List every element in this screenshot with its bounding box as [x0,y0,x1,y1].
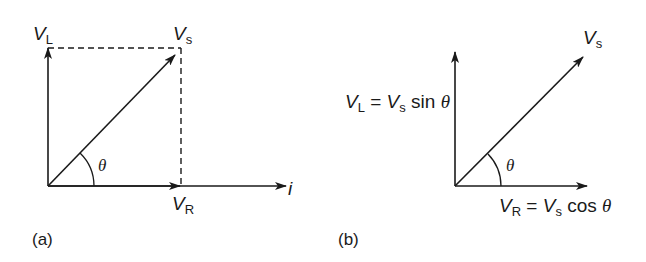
vs-vector-b [455,57,583,186]
caption-a: (a) [32,230,53,249]
vs-label-a: Vs [173,23,193,47]
vl-equation-b: VL = Vs sin θ [345,91,450,115]
vs-vector-a [48,55,175,186]
angle-arc-b [488,154,501,186]
vs-label-b: Vs [583,27,603,51]
vr-label-a: VR [172,193,194,217]
caption-b: (b) [338,230,359,249]
vr-equation-b: VR = Vs cos θ [499,195,611,219]
current-label-a: i [288,178,293,199]
diagram-b: θ VL = Vs sin θ Vs VR = Vs cos θ (b) [338,27,611,249]
angle-arc-a [80,153,94,186]
vl-label-a: VL [33,23,53,47]
phasor-diagrams: θ VL Vs VR i (a) θ VL = Vs sin θ Vs VR =… [0,0,646,262]
diagram-a: θ VL Vs VR i (a) [32,23,293,249]
angle-label-b: θ [506,156,514,175]
angle-label-a: θ [98,156,106,175]
